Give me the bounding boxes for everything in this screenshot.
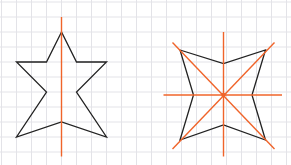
grid	[0, 0, 291, 165]
symmetry-axes	[62, 17, 283, 157]
four-pointed-star-center-point	[221, 93, 225, 97]
symmetry-diagram	[0, 0, 291, 165]
shapes	[17, 32, 266, 140]
